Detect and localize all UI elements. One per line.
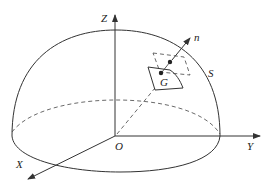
hemisphere-outline — [12, 30, 220, 136]
origin-label: O — [115, 140, 123, 152]
z-axis-label: Z — [101, 12, 108, 24]
centroid-label: G — [160, 76, 168, 88]
radius-dashed — [117, 88, 155, 134]
y-axis-label: Y — [247, 140, 255, 152]
connector — [162, 62, 170, 72]
surface-label: S — [208, 67, 214, 79]
equator-back-dashed — [12, 100, 220, 134]
hemisphere-diagram: Z Y X O n S G — [0, 0, 268, 186]
x-axis-label: X — [15, 158, 24, 170]
x-axis — [28, 136, 115, 179]
normal-label: n — [194, 31, 200, 43]
